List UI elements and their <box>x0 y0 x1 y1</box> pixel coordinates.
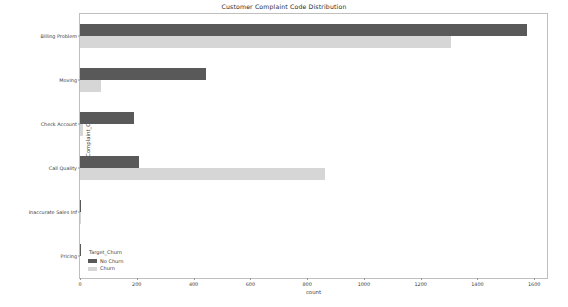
x-tick-mark <box>421 278 422 280</box>
y-tick-label: Call Quality <box>49 165 77 171</box>
x-tick-label: 0 <box>78 281 81 287</box>
legend-swatch-churn <box>88 267 97 271</box>
legend-swatch-no-churn <box>88 259 97 263</box>
bars-layer <box>80 14 547 278</box>
y-tick-label: Billing Problem <box>40 33 77 39</box>
y-tick-mark <box>78 124 80 125</box>
bar <box>80 244 81 256</box>
x-tick-label: 1200 <box>414 281 426 287</box>
x-tick-label: 1400 <box>471 281 483 287</box>
x-tick-mark <box>307 278 308 280</box>
x-tick-mark <box>534 278 535 280</box>
bar <box>80 24 527 36</box>
y-tick-mark <box>78 256 80 257</box>
legend-label-churn: Churn <box>100 265 115 273</box>
x-tick-mark <box>80 278 81 280</box>
bar <box>80 80 101 92</box>
bar <box>80 112 134 124</box>
bar <box>80 124 83 136</box>
y-tick-label: Check Account <box>41 121 77 127</box>
x-tick-mark <box>137 278 138 280</box>
chart-title: Customer Complaint Code Distribution <box>0 3 568 10</box>
x-tick-label: 400 <box>189 281 198 287</box>
bar <box>80 168 325 180</box>
x-tick-label: 1600 <box>528 281 540 287</box>
x-tick-mark <box>250 278 251 280</box>
plot-area: Complaint_Code count Target_Churn No Chu… <box>79 13 548 279</box>
y-tick-label: Pricing <box>61 253 77 259</box>
x-tick-mark <box>477 278 478 280</box>
legend-item-no-churn[interactable]: No Churn <box>88 258 123 266</box>
bar <box>80 36 451 48</box>
bar <box>80 68 206 80</box>
y-tick-label: Moving <box>59 77 77 83</box>
legend-title: Target_Churn <box>88 249 123 257</box>
x-tick-label: 600 <box>246 281 255 287</box>
chart-figure: Customer Complaint Code Distribution Com… <box>0 0 568 307</box>
x-axis-label: count <box>80 289 547 295</box>
bar <box>80 212 81 224</box>
x-tick-label: 1000 <box>358 281 370 287</box>
chart-legend: Target_Churn No Churn Churn <box>88 249 123 273</box>
x-tick-label: 800 <box>302 281 311 287</box>
y-tick-mark <box>78 212 80 213</box>
legend-item-churn[interactable]: Churn <box>88 265 123 273</box>
x-tick-label: 200 <box>132 281 141 287</box>
y-tick-mark <box>78 168 80 169</box>
bar <box>80 156 139 168</box>
legend-label-no-churn: No Churn <box>100 258 123 266</box>
y-tick-mark <box>78 36 80 37</box>
y-tick-label: Inaccurate Sales Inf <box>29 209 77 215</box>
y-tick-mark <box>78 80 80 81</box>
x-tick-mark <box>194 278 195 280</box>
bar <box>80 200 81 212</box>
x-tick-mark <box>364 278 365 280</box>
